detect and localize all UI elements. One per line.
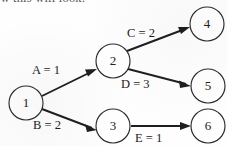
- node-5-label: 5: [205, 78, 212, 93]
- edge-D-label: D = 3: [121, 77, 150, 91]
- node-3[interactable]: 3: [96, 109, 130, 143]
- node-1[interactable]: 1: [9, 86, 43, 120]
- node-2[interactable]: 2: [96, 44, 130, 78]
- node-2-label: 2: [110, 53, 117, 68]
- node-4-label: 4: [204, 16, 211, 31]
- edge-B-arrowhead: [85, 125, 97, 133]
- graph-canvas: 1 2 3 4 5 6 A = 1 B = 2 C = 2 D = 3 E = …: [0, 0, 227, 146]
- edge-C-arrowhead: [178, 27, 190, 34]
- node-5[interactable]: 5: [191, 69, 225, 103]
- node-1-label: 1: [23, 95, 30, 110]
- node-6-label: 6: [205, 118, 212, 133]
- node-6[interactable]: 6: [191, 109, 225, 143]
- edge-E: [131, 122, 191, 130]
- node-4[interactable]: 4: [190, 7, 224, 41]
- node-3-label: 3: [110, 118, 117, 133]
- edge-D-arrowhead: [179, 81, 191, 89]
- diagram-page: ow this will look:: [0, 0, 227, 146]
- edge-C-label: C = 2: [127, 26, 155, 40]
- edge-B-label: B = 2: [33, 118, 61, 132]
- edge-E-label: E = 1: [135, 131, 162, 145]
- edge-A-arrowhead: [85, 69, 97, 77]
- edge-E-arrowhead: [180, 122, 191, 130]
- edge-A-label: A = 1: [32, 63, 60, 77]
